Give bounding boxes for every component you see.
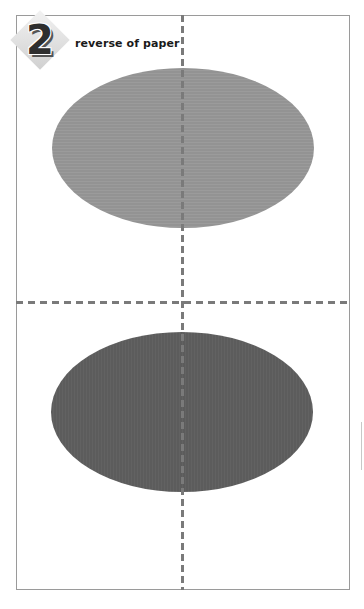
step-number: 2	[10, 14, 70, 66]
horizontal-fold-line	[16, 301, 350, 304]
adjacent-page-edge	[361, 422, 362, 470]
step-number-badge: 2	[10, 10, 70, 70]
step-caption: reverse of paper	[75, 37, 180, 51]
